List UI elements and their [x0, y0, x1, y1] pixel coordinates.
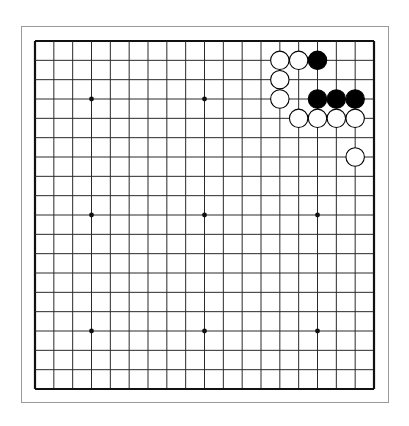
go-board[interactable] [0, 0, 409, 426]
black-stone [308, 90, 326, 108]
black-stone [346, 90, 364, 108]
star-point [202, 213, 207, 218]
star-point [89, 329, 94, 334]
white-stone [308, 109, 326, 127]
star-point [315, 329, 320, 334]
white-stone [327, 109, 345, 127]
star-point [202, 97, 207, 102]
star-point [89, 97, 94, 102]
star-point [89, 213, 94, 218]
black-stone [308, 51, 326, 69]
white-stone [346, 148, 364, 166]
black-stone [327, 90, 345, 108]
white-stone [271, 51, 289, 69]
white-stone [271, 70, 289, 88]
white-stone [289, 51, 307, 69]
star-point [202, 329, 207, 334]
star-point [315, 213, 320, 218]
white-stone [346, 109, 364, 127]
white-stone [289, 109, 307, 127]
white-stone [271, 90, 289, 108]
